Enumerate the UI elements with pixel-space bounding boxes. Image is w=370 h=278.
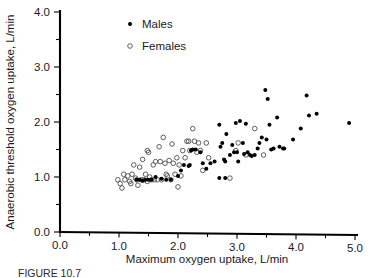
data-point-male [267,123,271,127]
data-point-male [234,121,238,125]
y-axis-title: Anaerobic threshold oxygen uptake, L/min [4,15,16,230]
figure-caption-text: FIGURE 10.7 [18,267,81,278]
legend-label-females: Females [142,40,186,52]
data-point-male [299,127,303,131]
data-point-male [223,160,227,164]
x-axis-title: Maximum oxygen uptake, L/min [126,253,288,265]
data-point-male [244,122,248,126]
data-point-male [257,141,261,145]
data-point-male [223,176,227,180]
data-point-male [235,150,239,154]
data-point-male [208,161,212,165]
x-tick-label: 3.0 [229,241,245,253]
x-tick-label: 0.0 [52,239,68,251]
legend-marker-males [128,22,132,26]
data-point-male [179,168,183,172]
y-tick-label: 0.0 [34,226,50,238]
x-tick-label: 5.0 [347,242,363,254]
data-point-male [256,146,260,150]
data-point-male [224,132,228,136]
data-point-male [218,145,222,149]
legend-label-males: Males [142,18,173,30]
data-point-male [169,178,173,182]
data-point-male [188,163,192,167]
data-point-male [220,141,224,145]
y-tick-label: 3.0 [34,61,50,73]
data-point-male [182,163,186,167]
data-point-male [217,176,221,180]
data-point-male [213,160,217,164]
data-point-male [159,177,163,181]
data-point-male [228,153,232,157]
data-point-male [291,138,295,142]
figure-caption: FIGURE 10.7 [18,267,81,278]
figure-container: 0.01.02.03.04.0 0.01.02.03.04.05.0 Males… [0,0,370,278]
data-point-male [204,167,208,171]
data-point-male [266,97,270,101]
y-tick-label: 4.0 [34,6,50,18]
data-point-male [263,88,267,92]
scatter-plot: 0.01.02.03.04.0 0.01.02.03.04.05.0 Males… [0,0,370,278]
y-tick-label: 2.0 [34,116,50,128]
data-point-male [230,143,234,147]
data-point-male [347,121,351,125]
data-point-male [201,161,205,165]
data-point-male [307,113,311,117]
data-point-male [194,148,198,152]
data-point-male [217,123,221,127]
data-point-male [238,119,242,123]
data-point-male [305,94,309,98]
data-point-male [275,116,279,120]
data-point-male [164,178,168,182]
data-point-male [242,152,246,156]
data-point-male [315,112,319,116]
data-point-male [260,135,264,139]
y-tick-label: 1.0 [34,171,50,183]
data-point-male [277,145,281,149]
x-tick-label: 2.0 [170,240,186,252]
data-point-male [241,141,245,145]
data-point-male [176,174,180,178]
data-point-male [265,138,269,142]
data-point-male [282,146,286,150]
x-tick-label: 1.0 [111,240,127,252]
data-point-male [154,175,158,179]
data-point-male [236,160,240,164]
data-point-male [272,146,276,150]
data-point-male [198,150,202,154]
x-tick-label: 4.0 [288,241,304,253]
data-point-male [253,153,257,157]
data-point-male [149,178,153,182]
